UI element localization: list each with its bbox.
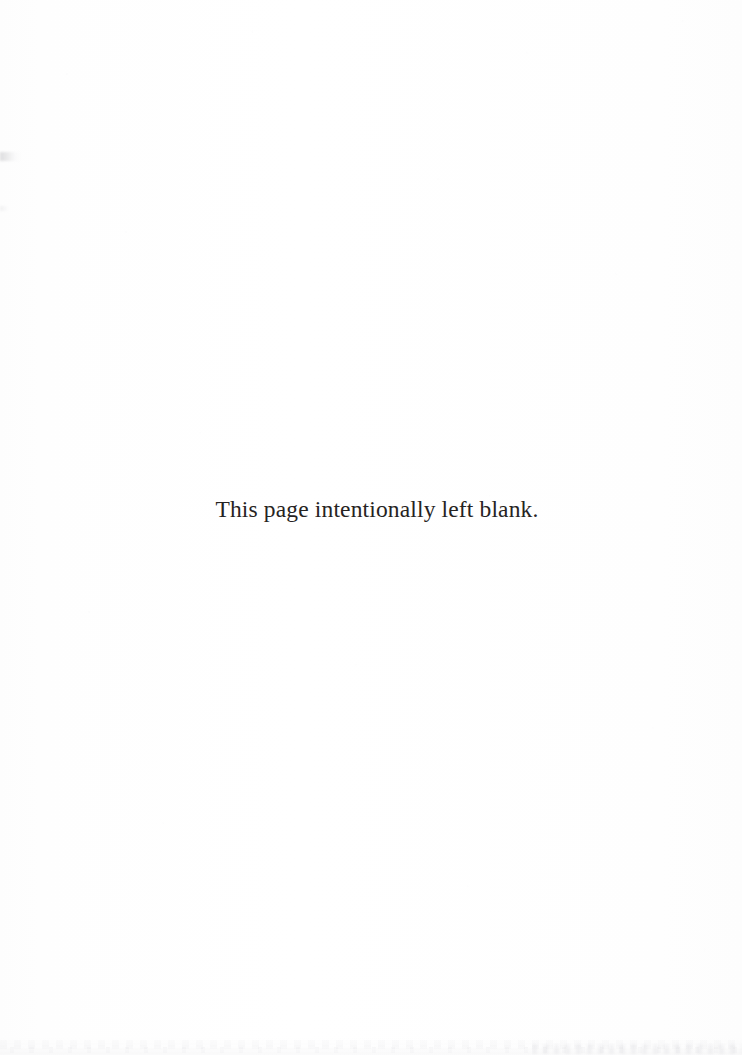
scan-smudge-left-edge [0,152,21,161]
scan-ghost-cluster-bottom-right [532,1025,742,1055]
paper-grain-texture [0,0,742,1055]
scan-speck-left-edge [0,206,9,211]
scanned-page: This page intentionally left blank. [0,0,742,1055]
blank-page-notice: This page intentionally left blank. [0,496,742,522]
scan-ghost-text-band-bottom [0,1019,742,1055]
